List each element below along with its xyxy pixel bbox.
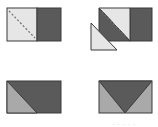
faint-caption: · · · · ·	[112, 121, 136, 127]
panel-step-1	[7, 8, 61, 41]
panel-step-2	[91, 8, 152, 50]
panel-step-4	[99, 81, 152, 113]
dark-square	[37, 8, 61, 41]
dark-square	[130, 8, 152, 41]
light-square	[7, 8, 37, 41]
diagram-canvas	[0, 0, 158, 127]
panel-step-3	[7, 81, 61, 113]
